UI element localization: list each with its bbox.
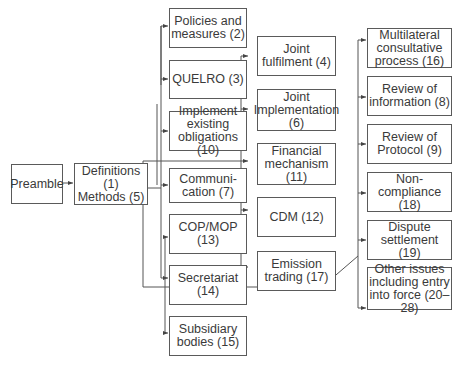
node-cdm: CDM (12) — [257, 197, 336, 237]
node-definitions-methods: Definitions (1) Methods (5) — [74, 163, 148, 205]
node-joint-fulfilment: Joint fulfilment (4) — [257, 36, 336, 76]
node-implement-obligations: Implement existing obligations (10) — [169, 111, 247, 151]
node-cop-mop: COP/MOP (13) — [169, 214, 247, 254]
node-policies-measures: Policies and measures (2) — [169, 8, 247, 48]
node-secretariat: Secretariat (14) — [169, 265, 247, 305]
node-non-compliance: Non-compliance (18) — [367, 172, 452, 212]
node-preamble: Preamble — [11, 164, 63, 204]
node-dispute-settlement: Dispute settlement (19) — [367, 220, 452, 260]
node-financial-mechanism: Financial mechanism (11) — [257, 143, 336, 185]
kyoto-protocol-structure-diagram: Preamble Definitions (1) Methods (5) Pol… — [0, 0, 470, 365]
node-quelro: QUELRO (3) — [169, 60, 247, 99]
node-multilateral-process: Multilateral consultative process (16) — [367, 28, 452, 68]
node-emission-trading: Emission trading (17) — [257, 251, 336, 291]
node-subsidiary-bodies: Subsidiary bodies (15) — [169, 316, 247, 356]
node-communication: Communi- cation (7) — [169, 168, 247, 203]
node-other-issues: Other issues including entry into force … — [367, 267, 452, 310]
node-joint-implementation: Joint Implementation (6) — [257, 89, 336, 131]
node-review-protocol: Review of Protocol (9) — [367, 124, 452, 164]
node-review-information: Review of information (8) — [367, 76, 452, 116]
